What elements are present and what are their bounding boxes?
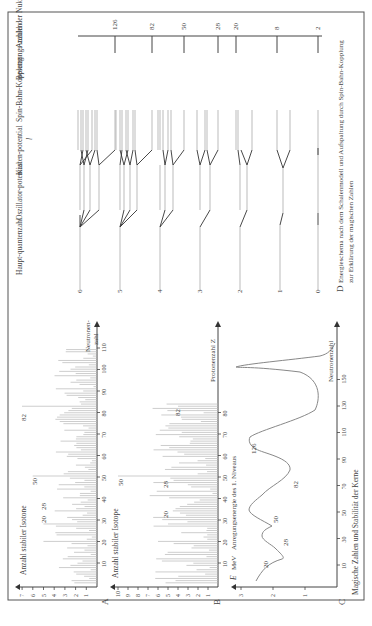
svg-text:10: 10 [101, 561, 107, 567]
svg-text:90: 90 [341, 457, 347, 463]
panel-c-ylabel-unit: MeV [230, 556, 238, 570]
svg-text:2: 2 [195, 594, 201, 597]
panel-c-letter: C [337, 599, 347, 605]
svg-text:1: 1 [205, 594, 211, 597]
panel-a-xlabel-2: zahl [92, 333, 100, 345]
panel-b-ylabel: Anzahl stabiler Isotope [111, 508, 120, 578]
svg-text:9: 9 [125, 594, 131, 597]
header-l: l [25, 138, 34, 140]
panel-c-ann-20: 20 [262, 561, 270, 569]
svg-text:50: 50 [101, 475, 107, 481]
svg-text:100: 100 [101, 365, 107, 374]
panel-c-xlabel: Neutronenzahl [327, 341, 335, 382]
haupt-1: 1 [276, 289, 284, 293]
magic-numbers-figure: Haupt-quantenzahl Oszillator-potential K… [0, 0, 372, 626]
panel-c-ann-50: 50 [272, 516, 280, 524]
svg-text:10: 10 [222, 561, 228, 567]
svg-text:30: 30 [101, 518, 107, 524]
svg-text:7: 7 [145, 594, 151, 597]
svg-text:2: 2 [270, 594, 276, 597]
panel-d: Haupt-quantenzahl Oszillator-potential K… [15, 0, 355, 293]
panel-b-ann-50: 50 [117, 479, 125, 487]
panel-d-caption-1: Energieschema nach dem Schalenmodell und… [337, 40, 345, 283]
panel-c-ann-82: 82 [292, 481, 300, 489]
magic-50: 50 [180, 23, 188, 31]
haupt-2: 2 [236, 289, 244, 293]
panel-a-letter: A [100, 598, 110, 605]
haupt-3: 3 [196, 289, 204, 293]
svg-text:4: 4 [51, 594, 57, 597]
svg-text:90: 90 [101, 389, 107, 395]
svg-text:150: 150 [341, 375, 347, 384]
svg-text:110: 110 [101, 343, 107, 352]
panel-c-ann-28: 28 [282, 539, 290, 547]
svg-text:6: 6 [30, 594, 36, 597]
header-anzahl: Anzahl der Nukleonen im Kern insgesamt [15, 0, 24, 48]
svg-text:50: 50 [222, 475, 228, 481]
haupt-0: 0 [314, 289, 322, 293]
svg-text:30: 30 [341, 537, 347, 543]
svg-text:1: 1 [83, 594, 89, 597]
svg-text:6: 6 [155, 594, 161, 597]
svg-text:8: 8 [135, 594, 141, 597]
svg-text:40: 40 [222, 497, 228, 503]
svg-text:4: 4 [175, 594, 181, 597]
shell-levels [78, 110, 318, 290]
magic-82: 82 [148, 23, 156, 31]
svg-text:3: 3 [62, 594, 68, 597]
svg-text:130: 130 [341, 401, 347, 410]
svg-text:80: 80 [101, 411, 107, 417]
panel-c-ylabel: Anregungsenergie des 1. Niveaus [230, 456, 238, 550]
panel-b-letter: B [212, 599, 222, 605]
panel-c-ylabel-e: E [229, 575, 238, 581]
svg-text:50: 50 [341, 510, 347, 516]
panel-a-ylabel: Anzahl stabiler Isotone [19, 505, 28, 575]
panel-b-ann-28: 28 [162, 481, 170, 489]
panel-c: 1231030507090110130150 E MeV Anregungsen… [229, 321, 360, 605]
svg-text:2: 2 [73, 594, 79, 597]
panel-c-caption: Magische Zahlen und Stabilität der Kerne [351, 469, 360, 595]
magic-8: 8 [273, 26, 281, 30]
svg-text:10: 10 [115, 591, 121, 597]
header-haupt: Haupt-quantenzahl [15, 218, 24, 275]
panel-c-ann-126: 126 [250, 443, 258, 454]
panel-b: 123456789101020304050607080 Anzahl stabi… [110, 321, 228, 605]
magic-2: 2 [314, 26, 322, 30]
panel-b-ann-82: 82 [174, 409, 182, 417]
svg-text:110: 110 [341, 428, 347, 437]
panel-b-xlabel: Protonenzahl Z [209, 339, 217, 382]
svg-text:5: 5 [165, 594, 171, 597]
panel-a-bars [22, 350, 97, 583]
svg-text:20: 20 [222, 540, 228, 546]
header-kasten: Kasten-potential [15, 125, 24, 175]
magic-28: 28 [214, 23, 222, 31]
svg-text:3: 3 [238, 594, 244, 597]
svg-text:70: 70 [101, 432, 107, 438]
figure-frame [8, 12, 364, 600]
svg-text:60: 60 [222, 454, 228, 460]
svg-text:40: 40 [101, 497, 107, 503]
panel-a-ann-28: 28 [40, 503, 48, 511]
svg-text:1: 1 [302, 594, 308, 597]
panel-d-letter: D [335, 285, 345, 292]
haupt-6: 6 [76, 289, 84, 293]
column-headers: Haupt-quantenzahl Oszillator-potential K… [15, 0, 34, 275]
panel-a-ann-20: 20 [40, 516, 48, 524]
svg-text:5: 5 [41, 594, 47, 597]
svg-text:10: 10 [341, 563, 347, 569]
panel-a-xlabel: Neutronen- [84, 319, 92, 352]
svg-text:60: 60 [101, 454, 107, 460]
panel-b-ann-20: 20 [162, 511, 170, 519]
principal-quantum-labels: 6 5 4 3 2 1 0 [76, 289, 322, 293]
panel-a-ann-82: 82 [20, 414, 28, 422]
svg-text:70: 70 [222, 432, 228, 438]
svg-text:80: 80 [222, 411, 228, 417]
svg-text:7: 7 [19, 594, 25, 597]
svg-text:3: 3 [185, 594, 191, 597]
panel-b-bars [118, 404, 218, 583]
magic-20: 20 [232, 23, 240, 31]
panel-d-caption-2: zur Erklärung der magischen Zahlen [347, 180, 355, 283]
panel-a: 1234567102030405060708090100110 Anzahl s… [15, 319, 110, 605]
svg-text:70: 70 [341, 484, 347, 490]
svg-text:30: 30 [222, 518, 228, 524]
